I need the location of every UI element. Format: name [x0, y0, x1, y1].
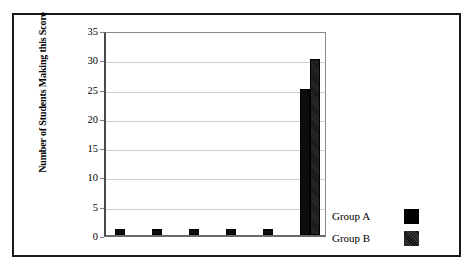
bar-group-a-2	[152, 229, 162, 235]
legend-item-group-a: Group A	[332, 205, 452, 227]
bar-group-a-5	[263, 229, 273, 235]
bars-layer	[106, 33, 325, 235]
legend-label: Group A	[332, 210, 392, 222]
bar-group-a-1	[115, 229, 125, 235]
y-axis-tick-mark	[100, 61, 104, 62]
y-axis-tick-label: 30	[76, 56, 98, 67]
y-axis-tick-label: 35	[76, 27, 98, 38]
y-axis-tick-mark	[100, 91, 104, 92]
y-axis-tick-mark	[100, 208, 104, 209]
bar-group-b-6	[310, 59, 320, 235]
y-axis-tick-label: 0	[76, 232, 98, 243]
textured-dark-swatch	[404, 231, 419, 246]
y-axis-tick-label: 10	[76, 173, 98, 184]
y-axis-tick-mark	[100, 32, 104, 33]
y-axis-tick-label: 20	[76, 115, 98, 126]
legend-label: Group B	[332, 232, 392, 244]
bar-chart: Number of Students Making this Score 051…	[14, 15, 459, 255]
bar-group-a-3	[189, 229, 199, 235]
y-axis-tick-mark	[100, 149, 104, 150]
y-axis-title: Number of Students Making this Score	[37, 3, 48, 183]
bar-group-a-6	[300, 89, 310, 235]
bar-group-a-4	[226, 229, 236, 235]
y-axis-tick-label: 5	[76, 202, 98, 213]
y-axis-tick-label: 15	[76, 144, 98, 155]
chart-legend: Group AGroup B	[332, 205, 452, 249]
figure-frame: Number of Students Making this Score 051…	[12, 13, 461, 257]
legend-item-group-b: Group B	[332, 227, 452, 249]
y-axis-tick-mark	[100, 178, 104, 179]
y-axis-tick-mark	[100, 237, 104, 238]
y-axis-tick-labels: 05101520253035	[76, 32, 98, 237]
solid-black-swatch	[404, 209, 419, 224]
y-axis-tick-label: 25	[76, 85, 98, 96]
plot-area	[104, 32, 326, 237]
y-axis-tick-mark	[100, 120, 104, 121]
